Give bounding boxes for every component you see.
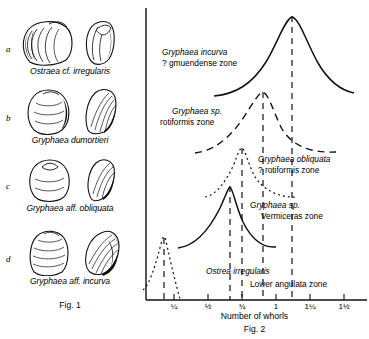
specimen-caption: Gryphaea aff. obliquata [0, 203, 140, 213]
x-tick-label: 1 [266, 302, 286, 311]
x-tick-label: ½ [198, 302, 218, 311]
specimen-letter: b [6, 113, 11, 123]
curve-label-zone: ? rotiformis zone [258, 165, 330, 176]
figure-plate: a [0, 0, 369, 339]
shell-drawing-a [16, 18, 136, 66]
curve-label-gryphaea-sp-rotiformis: Gryphaea sp. rotiformis zone [160, 106, 222, 127]
curve-label-zone: Vermiceras zone [250, 211, 323, 222]
specimen-d: d [0, 228, 140, 290]
x-axis-ticks [174, 294, 344, 300]
specimen-caption: Ostraea cf. irregularis [0, 66, 140, 76]
specimen-letter: c [6, 181, 10, 191]
shell-drawing-c [16, 155, 136, 203]
figure-1-caption: Fig. 1 [0, 300, 140, 310]
specimen-letter: a [6, 44, 11, 54]
specimen-a: a [0, 18, 140, 80]
specimen-caption: Gryphaea aff. incurva [0, 276, 140, 286]
curve-label-taxon: Gryphaea sp. [250, 200, 323, 211]
shell-drawing-d [16, 228, 136, 276]
curve-label-taxon: Gryphaea sp. [160, 106, 222, 117]
x-axis-title: Number of whorls [140, 311, 369, 321]
x-tick-label: 1½ [332, 302, 356, 311]
x-tick-label: ¾ [232, 302, 252, 311]
x-tick-label: 1¼ [298, 302, 322, 311]
specimen-b: b [0, 87, 140, 149]
figure-2-panel: Gryphaea incurva ? gmuendense zone Gryph… [140, 0, 369, 339]
specimen-caption: Gryphaea dumortieri [0, 135, 140, 145]
curve-label-gryphaea-incurva: Gryphaea incurva ? gmuendense zone [162, 47, 237, 68]
annotation-lower-angulata-zone: Lower angulata zone [250, 279, 327, 289]
x-tick-label: ¼ [164, 302, 184, 311]
curve-label-taxon: Gryphaea incurva [162, 47, 237, 58]
curve-label-gryphaea-obliquata: Gryphaea obliquata ? rotiformis zone [258, 154, 330, 175]
annotation-ostrea-irregularis: Ostrea irregularis [206, 266, 270, 276]
specimen-letter: d [6, 254, 11, 264]
curve-label-zone: rotiformis zone [160, 117, 222, 128]
curve-label-gryphaea-sp-vermiceras: Gryphaea sp. Vermiceras zone [250, 200, 323, 221]
figure-1-panel: a [0, 0, 140, 339]
curve-label-zone: ? gmuendense zone [162, 58, 237, 69]
specimen-c: c Gryphaea aff. obliquata [0, 155, 140, 217]
curve-label-taxon: Gryphaea obliquata [258, 154, 330, 165]
shell-drawing-b [16, 87, 136, 135]
figure-2-caption: Fig. 2 [140, 324, 369, 334]
curve-ostrea-irregularis [143, 237, 180, 299]
